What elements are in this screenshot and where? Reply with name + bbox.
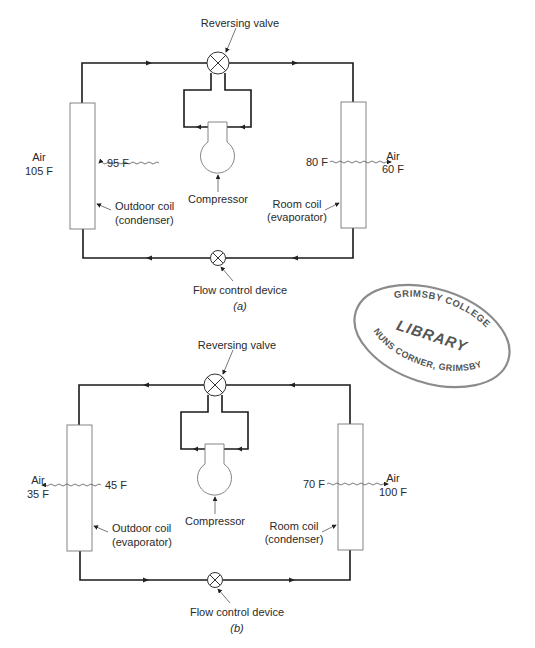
flow-control-valve-icon — [208, 573, 223, 588]
leader-outdoor-coil — [94, 526, 108, 532]
flow-arrow-icon — [289, 578, 295, 583]
top-pipe-right — [229, 63, 353, 102]
room-air-temp: 60 F — [382, 163, 404, 175]
library-stamp: GRIMSBY COLLEGE LIBRARY NUNS CORNER, GRI… — [341, 267, 522, 406]
flow-arrow-icon — [292, 256, 298, 261]
panel-caption: (a) — [233, 300, 247, 312]
outdoor-air-label: Air — [31, 474, 45, 486]
room-air-label: Air — [386, 150, 400, 162]
outdoor-coil-role: (evaporator) — [112, 536, 172, 548]
room-coil — [338, 424, 363, 550]
leader-reversing-valve — [223, 350, 233, 374]
room-coil-label: Room coil — [273, 198, 322, 210]
leader-room-coil — [325, 203, 339, 210]
outdoor-coil-role: (condenser) — [115, 214, 174, 226]
bottom-pipe-right — [226, 228, 353, 258]
compressor-discharge-pipe — [184, 73, 251, 127]
stamp-center-text: LIBRARY — [395, 316, 471, 355]
outdoor-air-temp: 105 F — [25, 165, 53, 177]
outdoor-air-temp: 35 F — [27, 488, 49, 500]
reversing-valve-icon — [207, 52, 229, 74]
compressor-discharge-pipe — [181, 395, 248, 449]
room-coil-role: (evaporator) — [267, 211, 327, 223]
panel-caption: (b) — [230, 622, 244, 634]
room-coil-label: Room coil — [270, 520, 319, 532]
leader-flow-control — [218, 589, 230, 603]
outdoor-coil-label: Outdoor coil — [115, 200, 174, 212]
leader-room-coil — [322, 525, 336, 532]
bottom-pipe-left — [83, 229, 210, 258]
compressor-label: Compressor — [188, 193, 248, 205]
flow-arrow-icon — [196, 125, 201, 130]
room-air-label: Air — [386, 472, 400, 484]
flow-control-label: Flow control device — [193, 284, 287, 296]
outdoor-coil — [67, 425, 92, 551]
flow-arrow-icon — [193, 447, 198, 452]
bottom-pipe-left — [80, 551, 207, 580]
reversing-valve-label: Reversing valve — [198, 339, 276, 351]
top-pipe-left — [82, 63, 207, 103]
panel-a: Reversing valve Flow control device (a) … — [25, 17, 404, 312]
top-pipe-right — [226, 385, 350, 424]
compressor-icon — [197, 444, 231, 495]
room-coil-temp: 70 F — [303, 478, 325, 490]
room-coil-role: (condenser) — [265, 533, 324, 545]
flow-arrow-icon — [240, 125, 245, 130]
outdoor-air-label: Air — [32, 151, 46, 163]
reversing-valve-label: Reversing valve — [201, 17, 279, 29]
flow-arrow-icon — [237, 447, 242, 452]
flow-arrow-icon — [289, 383, 295, 388]
flow-arrow-icon — [143, 383, 149, 388]
top-pipe-left — [79, 385, 204, 425]
flow-control-valve-icon — [211, 251, 226, 266]
outdoor-coil-label: Outdoor coil — [112, 522, 171, 534]
flow-arrow-icon — [292, 61, 298, 66]
compressor-label: Compressor — [185, 515, 245, 527]
leader-outdoor-coil — [97, 204, 111, 210]
room-air-temp: 100 F — [379, 486, 407, 498]
panel-b: Reversing valve Flow control device (b) … — [27, 339, 407, 634]
reversing-valve-icon — [204, 374, 226, 396]
heat-pump-diagram: Reversing valve Flow control device (a) … — [0, 0, 535, 648]
leader-flow-control — [221, 267, 233, 281]
flow-control-label: Flow control device — [190, 606, 284, 618]
outdoor-coil — [70, 103, 95, 229]
outdoor-coil-temp: 45 F — [105, 479, 127, 491]
outdoor-coil-temp: 95 F — [107, 157, 129, 169]
compressor-icon — [200, 122, 234, 173]
flow-arrow-icon — [146, 256, 152, 261]
room-coil-temp: 80 F — [306, 156, 328, 168]
flow-arrow-icon — [143, 578, 149, 583]
flow-arrow-icon — [146, 61, 152, 66]
leader-reversing-valve — [226, 28, 236, 52]
bottom-pipe-right — [223, 550, 350, 580]
room-coil — [341, 102, 366, 228]
